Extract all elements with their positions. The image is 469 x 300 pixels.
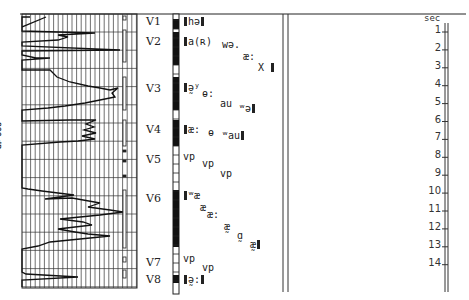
- segment-marker: [123, 257, 126, 262]
- phone: a(ʀ): [188, 36, 212, 47]
- axis-label: 800 dB: [0, 122, 2, 149]
- transcription-v8: ə̰:: [183, 275, 205, 285]
- transcription-v5-3: vp: [220, 169, 232, 179]
- transcription-v5-2: vp: [202, 159, 214, 169]
- voicing-bar-voiced: [173, 190, 179, 247]
- segment-label-v2: V2: [146, 35, 161, 48]
- transcription-v2-3: æ:: [243, 52, 255, 62]
- transcription-v2-1: a(ʀ): [183, 37, 212, 47]
- transcription-v3-1: ə̰ʸ: [183, 83, 200, 93]
- segment-marker: [123, 16, 126, 20]
- transcription-v6-3: æ:: [207, 210, 219, 220]
- voicing-bar-voiced: [173, 120, 179, 146]
- segment-marker: [123, 160, 126, 162]
- trace-grid: [22, 14, 137, 288]
- amplitude-trace: [22, 17, 123, 287]
- transcription-v6-1: ʷæ: [183, 191, 200, 201]
- time-tick-label: 8: [423, 149, 441, 160]
- time-tick-label: 13: [423, 239, 441, 250]
- transcription-v1: hə: [183, 17, 205, 27]
- time-tick-label: 11: [423, 203, 441, 214]
- segment-marker: [123, 120, 126, 146]
- transcription-v4-1: æ:: [183, 125, 200, 135]
- segment-marker: [123, 175, 126, 177]
- transcription-v3-4: ʷə: [239, 104, 256, 114]
- transcription-v2-2: wə.: [222, 40, 240, 50]
- segment-label-v8: V8: [146, 273, 161, 286]
- phone: ʷə: [239, 103, 251, 114]
- segment-markers: [123, 16, 126, 278]
- phone: hə: [188, 16, 200, 27]
- time-tick-label: 7: [423, 131, 441, 142]
- segment-label-v4: V4: [146, 123, 161, 136]
- voicing-bar-voiced: [173, 77, 179, 110]
- segment-label-v5: V5: [146, 153, 161, 166]
- time-tick-label: 4: [423, 78, 441, 89]
- time-tick-label: 9: [423, 167, 441, 178]
- phone: ʷæ: [188, 190, 200, 201]
- transcription-v6-4: æ̰: [224, 222, 230, 232]
- voicing-bar: [173, 14, 179, 294]
- time-tick-label: 2: [423, 42, 441, 53]
- transcription-v5-1: vp: [183, 152, 195, 162]
- transcription-v4-3: ʷau: [222, 131, 245, 141]
- time-scale: [442, 23, 448, 292]
- time-tick-label: 10: [423, 185, 441, 196]
- transcription-v6-6: æ̰: [250, 240, 261, 250]
- segment-marker: [123, 270, 126, 278]
- transcription-v2-4: X: [258, 63, 275, 73]
- time-tick-label: 3: [423, 60, 441, 71]
- grid-frame: [22, 14, 137, 288]
- phone: æ̰: [250, 239, 256, 250]
- phone: ə̰ʸ: [188, 82, 200, 93]
- time-tick-label: 12: [423, 221, 441, 232]
- transcription-v7-1: vp: [183, 254, 195, 264]
- time-tick-label: 14: [423, 257, 441, 268]
- transcription-v3-3: au: [220, 99, 232, 109]
- transcription-v7-2: vp: [202, 263, 214, 273]
- time-tick-label: 6: [423, 114, 441, 125]
- segment-label-v3: V3: [146, 82, 161, 95]
- segment-marker: [123, 30, 126, 62]
- segment-marker: [123, 77, 126, 110]
- segment-label-v7: V7: [146, 256, 161, 269]
- voicing-bar-voiced: [173, 19, 179, 29]
- voicing-bar-voiced: [173, 275, 179, 283]
- segment-marker: [123, 190, 126, 248]
- voicing-bar-voiced: [173, 32, 179, 65]
- transcription-v6-2: æ: [200, 203, 206, 213]
- segment-label-v6: V6: [146, 192, 161, 205]
- segment-label-v1: V1: [146, 15, 161, 28]
- transcription-v3-2: ɵ:: [202, 89, 214, 99]
- phone: ə̰:: [188, 274, 200, 285]
- transcription-v6-5: ɑ̰: [237, 231, 243, 241]
- time-unit-label: sec: [424, 13, 440, 23]
- time-tick-label: 1: [423, 24, 441, 35]
- phone: X: [258, 62, 264, 73]
- time-tick-label: 5: [423, 96, 441, 107]
- segment-marker: [123, 150, 126, 152]
- transcription-v4-2: ɵ: [208, 128, 214, 138]
- phone: ʷau: [222, 130, 240, 141]
- phone: æ:: [188, 124, 200, 135]
